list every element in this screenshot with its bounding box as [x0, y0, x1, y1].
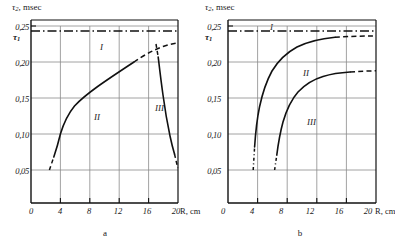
panel-a: τ2, msec 0,25 0,20 0,15 0,10 0,05 τ1 0 4…	[0, 0, 195, 243]
curve-a-II-head	[49, 157, 53, 170]
curve-b-III-head	[275, 155, 277, 170]
plot-svg-b	[195, 0, 390, 243]
curve-a-III	[158, 57, 174, 154]
curve-a-III-tail	[175, 154, 178, 168]
gridlines-a	[31, 26, 178, 203]
axis-frame-b	[228, 20, 376, 203]
gridlines-b	[228, 26, 376, 203]
curve-b-III	[277, 72, 350, 155]
curve-b-II-tail	[335, 36, 376, 37]
curve-a-II	[54, 62, 134, 157]
curve-b-II-head	[253, 147, 254, 170]
panel-b: τ2, msec 0,25 0,20 0,15 0,10 0,05 τ1 0 4…	[195, 0, 390, 243]
curve-b-III-tail	[350, 71, 376, 72]
curve-a-III-head	[156, 44, 158, 57]
plot-svg-a	[0, 0, 195, 243]
curve-b-II	[255, 37, 335, 147]
